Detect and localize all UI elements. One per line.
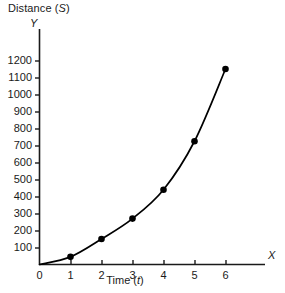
y-tick-label: 300 bbox=[0, 208, 32, 219]
y-tick-label: 700 bbox=[0, 140, 32, 151]
data-curve bbox=[40, 69, 226, 265]
data-point-marker bbox=[67, 254, 74, 261]
y-tick-label: 100 bbox=[0, 242, 32, 253]
x-tick-label: 0 bbox=[32, 270, 48, 281]
x-tick-label: 4 bbox=[156, 270, 172, 281]
y-tick-label: 600 bbox=[0, 157, 32, 168]
y-tick-label: 1100 bbox=[0, 72, 32, 83]
chart-figure: Distance (S) Y X Time (t) 10020030040050… bbox=[0, 0, 285, 293]
x-tick-label: 2 bbox=[94, 270, 110, 281]
data-point-markers bbox=[67, 66, 229, 260]
x-tick-label: 3 bbox=[125, 270, 141, 281]
data-point-marker bbox=[191, 138, 198, 145]
axes-group bbox=[39, 29, 265, 265]
data-point-marker bbox=[98, 236, 105, 243]
data-point-marker bbox=[222, 66, 229, 73]
data-point-marker bbox=[160, 186, 167, 193]
y-tick-label: 500 bbox=[0, 174, 32, 185]
x-tick-label: 6 bbox=[218, 270, 234, 281]
y-tick-label: 200 bbox=[0, 225, 32, 236]
x-tick-label: 1 bbox=[63, 270, 79, 281]
plot-canvas bbox=[0, 0, 285, 293]
y-tick-label: 400 bbox=[0, 191, 32, 202]
y-tick-label: 1000 bbox=[0, 89, 32, 100]
data-point-marker bbox=[129, 215, 136, 222]
y-tick-label: 800 bbox=[0, 123, 32, 134]
y-tick-label: 900 bbox=[0, 106, 32, 117]
x-tick-label: 5 bbox=[187, 270, 203, 281]
y-tick-label: 1200 bbox=[0, 55, 32, 66]
